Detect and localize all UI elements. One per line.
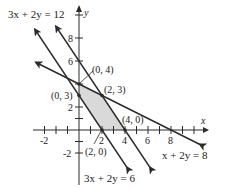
graph-canvas: y x -2 2 4 6 8 -2 2 6 8 3x + 2y = 12 3x … xyxy=(0,0,229,189)
x-tick-label: -2 xyxy=(40,135,48,146)
linear-programming-diagram: y x -2 2 4 6 8 -2 2 6 8 3x + 2y = 12 3x … xyxy=(0,0,229,189)
x-tick-label: 2 xyxy=(99,135,104,146)
point-label-0-3: (0, 3) xyxy=(51,90,73,102)
point-label-0-4: (0, 4) xyxy=(92,64,114,76)
x-axis-label: x xyxy=(200,115,206,126)
line-label-3x-2y-6: 3x + 2y = 6 xyxy=(84,172,135,184)
point-label-4-0: (4, 0) xyxy=(122,114,144,126)
line-label-3x-2y-12: 3x + 2y = 12 xyxy=(8,8,64,20)
y-tick-label: -2 xyxy=(63,148,71,159)
line-3x-2y-6 xyxy=(35,30,127,168)
y-tick-label: 8 xyxy=(68,33,73,44)
line-label-x-2y-8: x + 2y = 8 xyxy=(162,149,208,161)
point-label-2-3: (2, 3) xyxy=(104,84,126,96)
y-axis-arrow-icon xyxy=(76,5,82,12)
y-tick-label: 2 xyxy=(68,102,73,113)
y-tick-label: 6 xyxy=(68,56,73,67)
x-tick-label: 8 xyxy=(168,135,173,146)
x-tick-label: 4 xyxy=(122,135,127,146)
x-tick-label: 6 xyxy=(145,135,150,146)
y-axis-label: y xyxy=(83,7,89,18)
line-x-2y-8 xyxy=(36,63,200,145)
point-label-2-0: (2, 0) xyxy=(85,146,107,158)
x-axis-arrow-icon xyxy=(203,127,209,133)
